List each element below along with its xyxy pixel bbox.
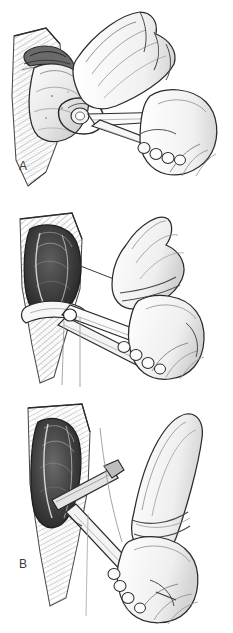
gloved-hand-a (138, 90, 217, 176)
panel-b-illustration (0, 205, 233, 395)
gown-sleeve-b (112, 217, 184, 309)
panel-a-illustration (0, 0, 233, 211)
panel-label-a: A (19, 160, 28, 172)
gloved-hands-c (108, 537, 198, 624)
figure-panel-c: C (0, 392, 233, 633)
panel-c-illustration (0, 392, 233, 633)
figure-panel-b: B (0, 205, 233, 395)
figure-panel-a: A (0, 0, 233, 211)
surgical-figure-sheet: A (0, 0, 233, 633)
